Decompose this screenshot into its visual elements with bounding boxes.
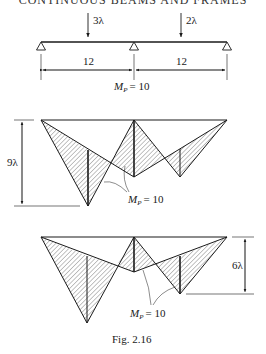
support-right-icon — [223, 42, 232, 50]
mechanism-1-diagram: 9λ MP= 10 — [7, 120, 227, 207]
plastic-moment-label: MP= 10 — [113, 80, 150, 94]
height-label-2: 6λ — [232, 259, 244, 271]
figure-caption: Fig. 2.16 — [112, 333, 152, 345]
support-left-icon — [37, 42, 46, 50]
load-label-1: 3λ — [93, 14, 105, 26]
mechanism-1-mp-label: MP= 10 — [127, 193, 164, 207]
mechanism-2-diagram: 6λ MP= 10 — [41, 237, 254, 323]
mechanism-2-mp-label: MP= 10 — [129, 307, 166, 321]
span-label-2: 12 — [176, 55, 187, 67]
support-middle-icon — [130, 42, 139, 50]
figure-canvas: 3λ 2λ 12 12 MP= 10 — [0, 0, 266, 354]
load-label-2: 2λ — [186, 14, 198, 26]
span-label-1: 12 — [83, 55, 94, 67]
beam-diagram: 3λ 2λ 12 12 MP= 10 — [37, 13, 232, 94]
height-label-1: 9λ — [7, 156, 19, 168]
